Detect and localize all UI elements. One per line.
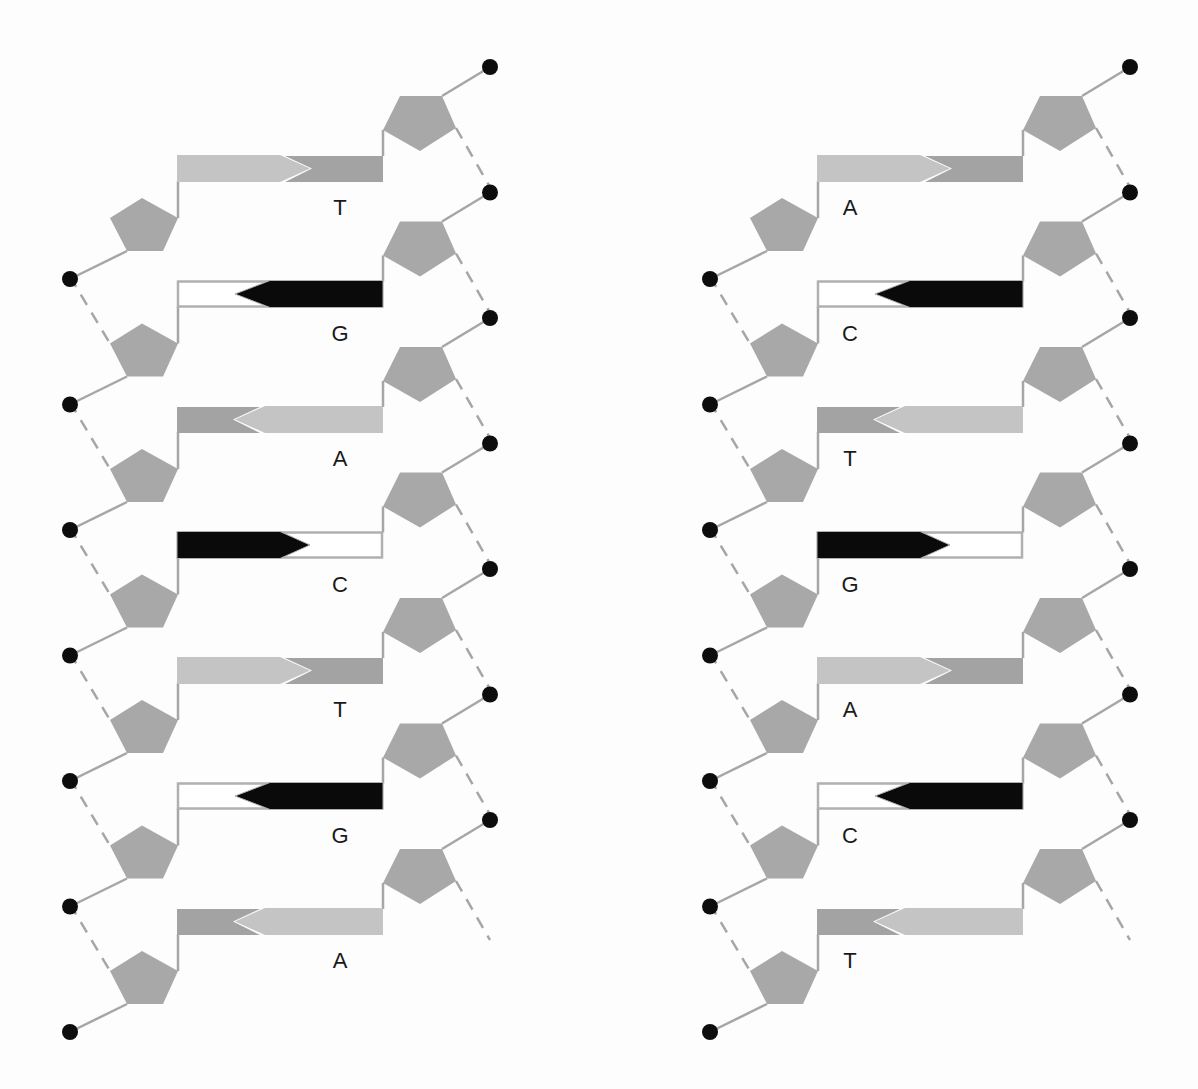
sugar-pentagon-left xyxy=(110,324,178,377)
backbone-bond xyxy=(442,67,490,96)
base-label: A xyxy=(333,948,348,973)
base-light-arrow xyxy=(235,406,383,433)
sugar-pentagon-right xyxy=(383,849,456,904)
sugar-pentagon-left xyxy=(110,826,178,879)
backbone-dashed-bond xyxy=(456,379,490,438)
base-pair xyxy=(177,657,383,684)
sugar-pentagon-left xyxy=(750,575,818,628)
base-pair xyxy=(817,908,1023,935)
backbone-dashed-bond xyxy=(1096,254,1130,313)
base-label: G xyxy=(331,321,348,346)
sugar-pentagon-right xyxy=(1023,849,1096,904)
base-label: T xyxy=(333,195,346,220)
backbone-bond xyxy=(442,820,490,849)
dna-diagram: TGACTGAACTGACT xyxy=(0,0,1198,1089)
backbone-bond xyxy=(70,502,127,530)
sugar-pentagon-left xyxy=(750,449,818,502)
phosphate-right xyxy=(1122,561,1138,577)
backbone-dashed-bond xyxy=(456,505,490,564)
base-light-arrow xyxy=(817,657,950,684)
phosphate-right xyxy=(1122,687,1138,703)
phosphate-left xyxy=(702,773,718,789)
phosphate-left xyxy=(702,648,718,664)
phosphate-left xyxy=(62,773,78,789)
sugar-pentagon-left xyxy=(110,700,178,753)
backbone-bond xyxy=(70,628,127,656)
backbone-dashed-bond xyxy=(70,528,110,595)
sugar-pentagon-right xyxy=(383,598,456,653)
phosphate-right xyxy=(482,561,498,577)
backbone-dashed-bond xyxy=(710,528,750,595)
backbone-bond xyxy=(70,753,127,781)
base-light-arrow xyxy=(177,657,310,684)
base-pair xyxy=(177,406,383,433)
sugar-pentagon-right xyxy=(383,473,456,528)
backbone-bond xyxy=(710,1004,767,1032)
base-pair xyxy=(817,155,1023,182)
backbone-dashed-bond xyxy=(70,402,110,469)
base-pair xyxy=(178,281,383,308)
backbone-dashed-bond xyxy=(710,653,750,720)
base-pair xyxy=(817,532,1022,559)
backbone-dashed-bond xyxy=(710,904,750,971)
sugar-pentagon-right xyxy=(1023,473,1096,528)
backbone-dashed-bond xyxy=(1096,505,1130,564)
backbone-bond xyxy=(70,251,127,279)
base-label: G xyxy=(841,572,858,597)
phosphate-right xyxy=(482,59,498,75)
backbone-dashed-bond xyxy=(456,881,490,940)
backbone-dashed-bond xyxy=(1096,630,1130,689)
backbone-dashed-bond xyxy=(1096,881,1130,940)
sugar-pentagon-right xyxy=(383,724,456,779)
phosphate-left xyxy=(62,522,78,538)
backbone-bond xyxy=(710,502,767,530)
base-label: G xyxy=(331,823,348,848)
sugar-pentagon-right xyxy=(383,222,456,277)
sugar-pentagon-left xyxy=(750,826,818,879)
phosphate-left xyxy=(702,899,718,915)
base-pair xyxy=(817,406,1023,433)
base-label: T xyxy=(843,446,856,471)
sugar-pentagon-left xyxy=(750,700,818,753)
backbone-bond xyxy=(710,251,767,279)
phosphate-left xyxy=(702,522,718,538)
phosphate-left xyxy=(702,271,718,287)
base-pair xyxy=(177,155,383,182)
backbone-bond xyxy=(1082,67,1130,96)
backbone-bond xyxy=(710,628,767,656)
backbone-bond xyxy=(1082,318,1130,347)
sugar-pentagon-right xyxy=(1023,96,1096,151)
sugar-pentagon-left xyxy=(110,951,178,1004)
backbone-bond xyxy=(1082,695,1130,724)
phosphate-right xyxy=(482,310,498,326)
backbone-dashed-bond xyxy=(456,254,490,313)
base-label: A xyxy=(843,195,858,220)
sugar-pentagon-right xyxy=(1023,347,1096,402)
base-light-arrow xyxy=(875,406,1023,433)
base-label: A xyxy=(333,446,348,471)
backbone-dashed-bond xyxy=(456,630,490,689)
backbone-dashed-bond xyxy=(710,277,750,344)
base-light-arrow xyxy=(817,155,950,182)
sugar-pentagon-left xyxy=(110,198,178,251)
base-label: C xyxy=(842,321,858,346)
phosphate-left xyxy=(62,648,78,664)
base-pair xyxy=(177,532,382,559)
backbone-bond xyxy=(70,879,127,907)
base-label: A xyxy=(843,697,858,722)
backbone-bond xyxy=(442,444,490,473)
sugar-pentagon-right xyxy=(383,96,456,151)
sugar-pentagon-right xyxy=(383,347,456,402)
sugar-pentagon-left xyxy=(750,951,818,1004)
backbone-dashed-bond xyxy=(456,756,490,815)
base-label: T xyxy=(333,697,346,722)
base-label: C xyxy=(842,823,858,848)
phosphate-right xyxy=(1122,310,1138,326)
phosphate-left xyxy=(702,1024,718,1040)
phosphate-right xyxy=(1122,812,1138,828)
backbone-bond xyxy=(442,695,490,724)
backbone-dashed-bond xyxy=(70,277,110,344)
backbone-dashed-bond xyxy=(710,779,750,846)
phosphate-right xyxy=(1122,59,1138,75)
sugar-pentagon-left xyxy=(110,575,178,628)
